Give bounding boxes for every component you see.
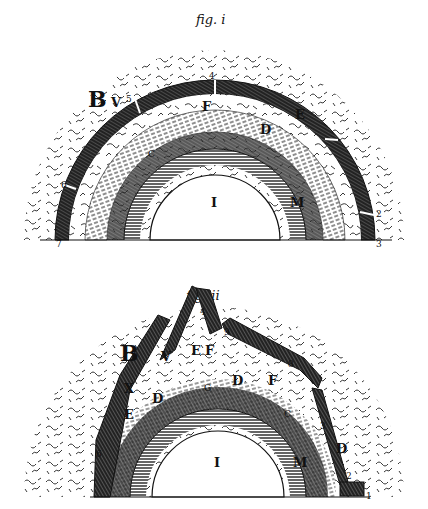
label-I: I [211, 196, 217, 209]
label-C: C [284, 410, 291, 419]
label-C: C [148, 150, 155, 159]
label-D-top: D [232, 374, 243, 387]
figure-2: fig. ii [0, 260, 428, 509]
label-M: M [293, 456, 307, 469]
figure-1-earth-cross-section [0, 0, 428, 250]
label-6: 6 [61, 181, 67, 190]
label-5: 5 [126, 95, 132, 104]
label-F-right: F [268, 374, 277, 387]
label-M: M [290, 196, 304, 209]
label-E-left: E [124, 408, 134, 421]
label-F: F [205, 344, 214, 357]
label-6: 6 [96, 450, 102, 459]
label-V: V [111, 96, 121, 109]
label-I: I [214, 456, 220, 469]
label-V: V [161, 350, 171, 363]
label-D: D [260, 123, 271, 136]
figure-2-earth-cross-section [0, 260, 428, 509]
label-E: E [191, 344, 201, 357]
label-3: 3 [320, 422, 326, 431]
label-B: B [88, 88, 107, 110]
label-7: 7 [56, 240, 62, 249]
label-X: X [124, 382, 134, 395]
label-D-left: D [152, 392, 163, 405]
label-2: 2 [376, 210, 382, 219]
label-E: E [295, 108, 305, 121]
label-D-right: D [336, 442, 347, 455]
label-G: G [204, 384, 211, 393]
label-F: F [202, 100, 211, 113]
label-8: 8 [288, 360, 294, 369]
crust-fragment-base-right [340, 482, 364, 496]
label-3: 3 [376, 240, 382, 249]
label-2: 2 [346, 472, 352, 481]
label-1: 1 [366, 492, 372, 501]
label-4: 4 [209, 72, 215, 81]
label-B: B [120, 342, 139, 364]
figure-1: fig. i [0, 0, 428, 250]
label-9: 9 [224, 328, 230, 337]
label-4: 4 [200, 308, 206, 317]
